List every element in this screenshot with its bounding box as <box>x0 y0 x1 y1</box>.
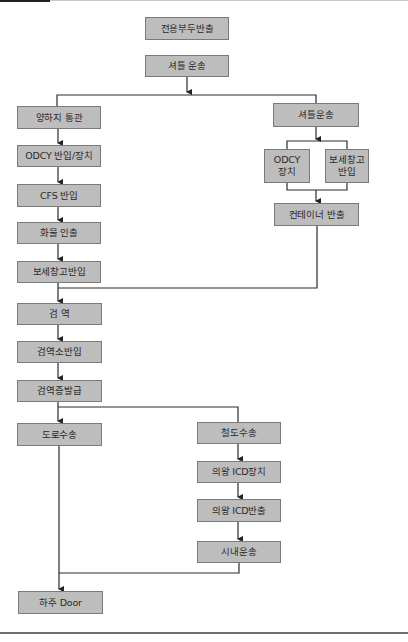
node-quarantine-station-entry: 검역소반입 <box>17 341 102 363</box>
node-container-release: 컨테이너 반출 <box>274 203 359 226</box>
node-odcy-storage: ODCY 반입/장치 <box>17 145 101 167</box>
node-shuttle-transport: 셔틀 운송 <box>145 55 229 77</box>
node-quarantine: 검 역 <box>17 303 102 325</box>
node-consignee-door: 하주 Door <box>18 591 103 614</box>
node-uiwang-icd-storage: 의왕 ICD장치 <box>197 461 281 483</box>
node-bonded-warehouse-entry: 보세창고반입 <box>17 261 101 283</box>
node-road-transport: 도로수송 <box>17 423 102 446</box>
node-odcy-storage-right: ODCY 장치 <box>264 149 310 183</box>
node-city-transport: 시내운송 <box>197 541 281 563</box>
node-cfs-entry: CFS 반입 <box>17 184 101 207</box>
node-unloading-customs: 양하지 통관 <box>17 106 101 129</box>
node-rail-transport: 철도수송 <box>197 422 281 444</box>
node-uiwang-icd-release: 의왕 ICD반출 <box>197 499 281 522</box>
node-cargo-withdrawal: 화물 인출 <box>17 222 101 244</box>
bottom-rule <box>0 632 408 634</box>
node-shuttle-transport-right: 셔틀운송 <box>273 103 359 127</box>
node-dedicated-pier-release: 전용부두반출 <box>145 17 229 40</box>
node-bonded-warehouse-right: 보세창고 반입 <box>325 149 369 183</box>
node-quarantine-certificate: 검역증발급 <box>17 380 102 402</box>
